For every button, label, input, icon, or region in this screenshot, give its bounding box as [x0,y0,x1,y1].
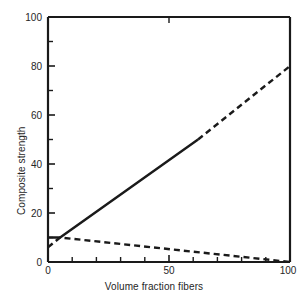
data-series-layer [48,66,290,262]
x-axis-title: Volume fraction fibers [0,281,308,292]
x-tick-label-50: 50 [154,265,184,276]
plot-frame [48,17,290,262]
series-composite-strength [48,140,198,238]
chart-figure: 0 20 40 60 80 100 0 50 100 Volume fracti… [0,0,308,299]
y-tick-label-80: 80 [14,61,42,72]
y-tick-label-60: 60 [14,110,42,121]
chart-svg [0,0,308,299]
y-axis-title: Composite strength [16,126,27,215]
x-tick-label-100: 100 [273,265,303,276]
y-tick-label-100: 100 [14,12,42,23]
x-tick-label-0: 0 [33,265,63,276]
series-composite-strength-extrapolated [198,66,290,140]
